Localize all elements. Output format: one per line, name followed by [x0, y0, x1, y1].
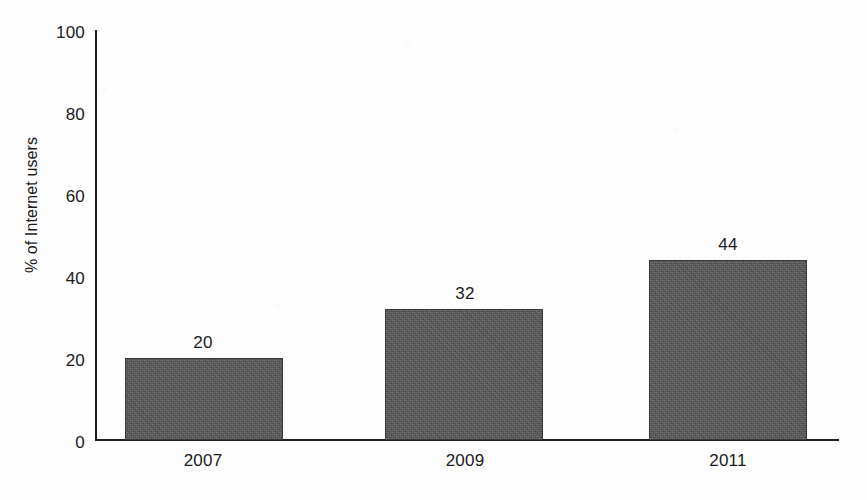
y-tick-label-0: 0 [7, 434, 85, 451]
y-tick-label-80: 80 [7, 106, 85, 123]
bar-value-2011: 44 [688, 236, 768, 253]
bar-2011[interactable] [649, 260, 807, 440]
y-tick-label-40: 40 [7, 270, 85, 287]
x-tick-label-2009: 2009 [425, 452, 505, 469]
y-tick-label-60: 60 [7, 188, 85, 205]
bar-chart-figure: % of Internet users 100 80 60 40 20 0 20… [0, 0, 867, 500]
bar-2007[interactable] [125, 358, 283, 440]
x-tick-label-2011: 2011 [688, 452, 768, 469]
bar-2009[interactable] [385, 309, 543, 440]
bar-value-2007: 20 [163, 334, 243, 351]
y-tick-label-100: 100 [7, 24, 85, 41]
x-tick-label-2007: 2007 [163, 452, 243, 469]
bar-value-2009: 32 [425, 285, 505, 302]
y-tick-label-20: 20 [7, 352, 85, 369]
y-axis-tick-labels: 100 80 60 40 20 0 [0, 0, 85, 500]
